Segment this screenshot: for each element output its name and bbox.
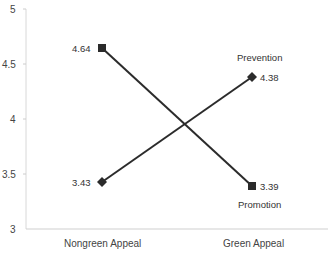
series-prevention: 3.43 4.38 Prevention <box>72 52 282 188</box>
value-label-promotion-green: 3.39 <box>260 181 279 192</box>
value-label-prevention-green: 4.38 <box>260 72 279 83</box>
value-label-promotion-nongreen: 4.64 <box>72 43 91 54</box>
square-marker-icon <box>98 44 106 52</box>
x-category-nongreen: Nongreen Appeal <box>64 238 141 249</box>
y-tick-3-5: 3.5 <box>2 169 16 180</box>
y-ticks: 5 4.5 4 3.5 3 <box>2 4 26 235</box>
y-tick-3: 3 <box>10 224 16 235</box>
square-marker-icon <box>248 182 256 190</box>
interaction-line-chart: 5 4.5 4 3.5 3 4.64 3.39 Promotion 3.43 4… <box>0 0 328 262</box>
value-label-prevention-nongreen: 3.43 <box>72 177 91 188</box>
y-tick-4-5: 4.5 <box>2 59 16 70</box>
series-label-promotion: Promotion <box>238 199 281 210</box>
y-tick-4: 4 <box>10 114 16 125</box>
series-label-prevention: Prevention <box>237 52 282 63</box>
x-category-green: Green Appeal <box>223 238 284 249</box>
y-tick-5: 5 <box>10 4 16 15</box>
